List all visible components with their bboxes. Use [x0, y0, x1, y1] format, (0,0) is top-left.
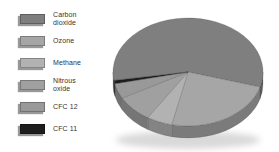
chart-figure: Carbon dioxide Ozone Methane Nitrous oxi… [0, 0, 279, 152]
pie-chart [0, 0, 279, 152]
pie-slices [113, 18, 263, 126]
pie-chart-svg [0, 0, 279, 152]
